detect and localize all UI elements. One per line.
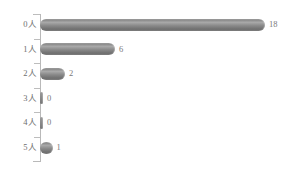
value-label: 0 xyxy=(47,93,51,104)
chart-row: 2人 2 xyxy=(0,63,299,88)
category-label: 5人 xyxy=(23,142,37,153)
bar-wrapper xyxy=(40,19,265,31)
axis-tick xyxy=(34,39,40,40)
bar-wrapper xyxy=(40,68,65,80)
bar-wrapper xyxy=(40,92,43,104)
bar xyxy=(40,43,115,55)
bar xyxy=(40,19,265,31)
bar xyxy=(40,92,43,104)
axis-tick xyxy=(34,112,40,113)
chart-row: 4人 0 xyxy=(0,112,299,137)
bar-chart: 0人 18 1人 6 2人 2 3人 xyxy=(0,0,299,180)
axis-tick xyxy=(34,88,40,89)
chart-row: 3人 0 xyxy=(0,88,299,113)
bar xyxy=(40,68,65,80)
value-label: 18 xyxy=(269,19,278,30)
bar-wrapper xyxy=(40,142,53,154)
category-label: 1人 xyxy=(23,44,37,55)
value-label: 1 xyxy=(57,142,61,153)
axis-tick xyxy=(34,14,40,15)
value-label: 2 xyxy=(69,68,73,79)
plot-area: 0人 18 1人 6 2人 2 3人 xyxy=(0,0,299,180)
category-label: 0人 xyxy=(23,19,37,30)
axis-tick xyxy=(34,137,40,138)
bar xyxy=(40,117,43,129)
chart-row: 0人 18 xyxy=(0,14,299,39)
value-label: 6 xyxy=(119,44,123,55)
axis-tick xyxy=(34,63,40,64)
value-label: 0 xyxy=(47,117,51,128)
chart-row: 5人 1 xyxy=(0,137,299,162)
chart-row: 1人 6 xyxy=(0,39,299,64)
category-label: 4人 xyxy=(23,117,37,128)
bar-wrapper xyxy=(40,43,115,55)
category-label: 3人 xyxy=(23,93,37,104)
bar xyxy=(40,142,53,154)
category-label: 2人 xyxy=(23,68,37,79)
bar-wrapper xyxy=(40,117,43,129)
